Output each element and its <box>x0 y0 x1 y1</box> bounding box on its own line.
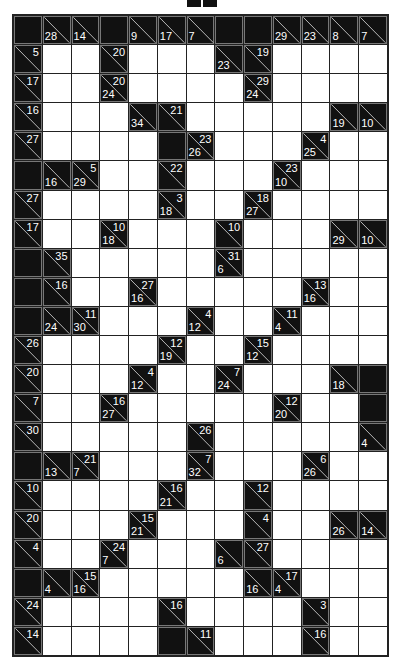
entry-cell[interactable] <box>244 132 272 160</box>
entry-cell[interactable] <box>187 569 215 597</box>
entry-cell[interactable] <box>129 481 157 509</box>
entry-cell[interactable] <box>100 423 128 451</box>
entry-cell[interactable] <box>330 45 358 73</box>
entry-cell[interactable] <box>244 452 272 480</box>
entry-cell[interactable] <box>158 249 186 277</box>
entry-cell[interactable] <box>215 161 243 189</box>
entry-cell[interactable] <box>72 598 100 626</box>
entry-cell[interactable] <box>158 74 186 102</box>
entry-cell[interactable] <box>302 161 330 189</box>
entry-cell[interactable] <box>215 598 243 626</box>
entry-cell[interactable] <box>72 394 100 422</box>
entry-cell[interactable] <box>359 540 387 568</box>
entry-cell[interactable] <box>187 161 215 189</box>
entry-cell[interactable] <box>273 365 301 393</box>
entry-cell[interactable] <box>302 511 330 539</box>
entry-cell[interactable] <box>72 481 100 509</box>
entry-cell[interactable] <box>72 45 100 73</box>
entry-cell[interactable] <box>302 569 330 597</box>
entry-cell[interactable] <box>43 336 71 364</box>
entry-cell[interactable] <box>72 423 100 451</box>
entry-cell[interactable] <box>273 249 301 277</box>
entry-cell[interactable] <box>273 191 301 219</box>
entry-cell[interactable] <box>43 394 71 422</box>
entry-cell[interactable] <box>273 423 301 451</box>
entry-cell[interactable] <box>100 103 128 131</box>
entry-cell[interactable] <box>330 423 358 451</box>
entry-cell[interactable] <box>359 74 387 102</box>
entry-cell[interactable] <box>158 540 186 568</box>
entry-cell[interactable] <box>158 569 186 597</box>
entry-cell[interactable] <box>72 336 100 364</box>
entry-cell[interactable] <box>244 627 272 655</box>
entry-cell[interactable] <box>187 336 215 364</box>
entry-cell[interactable] <box>129 598 157 626</box>
entry-cell[interactable] <box>273 45 301 73</box>
entry-cell[interactable] <box>158 511 186 539</box>
entry-cell[interactable] <box>43 45 71 73</box>
entry-cell[interactable] <box>359 249 387 277</box>
entry-cell[interactable] <box>129 74 157 102</box>
entry-cell[interactable] <box>100 627 128 655</box>
entry-cell[interactable] <box>43 540 71 568</box>
entry-cell[interactable] <box>215 307 243 335</box>
entry-cell[interactable] <box>359 45 387 73</box>
entry-cell[interactable] <box>129 191 157 219</box>
entry-cell[interactable] <box>158 278 186 306</box>
entry-cell[interactable] <box>129 307 157 335</box>
entry-cell[interactable] <box>215 423 243 451</box>
entry-cell[interactable] <box>215 74 243 102</box>
entry-cell[interactable] <box>244 220 272 248</box>
entry-cell[interactable] <box>43 598 71 626</box>
entry-cell[interactable] <box>129 161 157 189</box>
entry-cell[interactable] <box>43 423 71 451</box>
entry-cell[interactable] <box>244 423 272 451</box>
entry-cell[interactable] <box>244 278 272 306</box>
entry-cell[interactable] <box>187 365 215 393</box>
entry-cell[interactable] <box>100 481 128 509</box>
entry-cell[interactable] <box>72 220 100 248</box>
entry-cell[interactable] <box>302 220 330 248</box>
entry-cell[interactable] <box>302 394 330 422</box>
entry-cell[interactable] <box>359 627 387 655</box>
entry-cell[interactable] <box>187 74 215 102</box>
entry-cell[interactable] <box>330 598 358 626</box>
entry-cell[interactable] <box>330 336 358 364</box>
entry-cell[interactable] <box>187 103 215 131</box>
entry-cell[interactable] <box>273 598 301 626</box>
entry-cell[interactable] <box>302 103 330 131</box>
entry-cell[interactable] <box>43 103 71 131</box>
entry-cell[interactable] <box>100 336 128 364</box>
entry-cell[interactable] <box>302 74 330 102</box>
entry-cell[interactable] <box>359 132 387 160</box>
entry-cell[interactable] <box>129 249 157 277</box>
entry-cell[interactable] <box>129 132 157 160</box>
entry-cell[interactable] <box>72 540 100 568</box>
entry-cell[interactable] <box>359 191 387 219</box>
entry-cell[interactable] <box>273 452 301 480</box>
entry-cell[interactable] <box>72 103 100 131</box>
entry-cell[interactable] <box>187 394 215 422</box>
entry-cell[interactable] <box>359 598 387 626</box>
entry-cell[interactable] <box>302 540 330 568</box>
entry-cell[interactable] <box>129 336 157 364</box>
entry-cell[interactable] <box>330 540 358 568</box>
entry-cell[interactable] <box>330 74 358 102</box>
entry-cell[interactable] <box>273 540 301 568</box>
entry-cell[interactable] <box>244 365 272 393</box>
entry-cell[interactable] <box>330 394 358 422</box>
entry-cell[interactable] <box>273 511 301 539</box>
entry-cell[interactable] <box>273 627 301 655</box>
entry-cell[interactable] <box>187 191 215 219</box>
entry-cell[interactable] <box>215 132 243 160</box>
entry-cell[interactable] <box>215 627 243 655</box>
entry-cell[interactable] <box>187 220 215 248</box>
entry-cell[interactable] <box>359 569 387 597</box>
entry-cell[interactable] <box>330 569 358 597</box>
entry-cell[interactable] <box>359 481 387 509</box>
entry-cell[interactable] <box>158 365 186 393</box>
entry-cell[interactable] <box>100 365 128 393</box>
entry-cell[interactable] <box>129 394 157 422</box>
entry-cell[interactable] <box>158 45 186 73</box>
entry-cell[interactable] <box>100 132 128 160</box>
